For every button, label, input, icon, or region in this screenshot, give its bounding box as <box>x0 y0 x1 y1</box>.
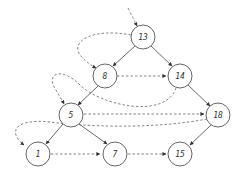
node-label: 14 <box>175 72 185 81</box>
node-15: 15 <box>168 142 192 166</box>
node-5: 5 <box>59 103 83 127</box>
solid-edges <box>46 46 211 145</box>
node-label: 1 <box>36 150 41 159</box>
edge-13-8 <box>113 46 135 66</box>
edge-5-7 <box>79 124 107 144</box>
node-label: 18 <box>213 111 223 120</box>
node-7: 7 <box>103 142 127 166</box>
node-8: 8 <box>93 64 117 88</box>
node-label: 13 <box>138 33 148 42</box>
edge-14-18 <box>188 85 210 106</box>
edge-8-5 <box>78 86 98 105</box>
node-1: 1 <box>26 142 50 166</box>
thread-18-1 <box>16 119 207 145</box>
node-label: 5 <box>69 111 74 120</box>
edge-13-14 <box>151 46 172 66</box>
node-label: 7 <box>113 150 118 159</box>
node-label: 15 <box>175 150 185 159</box>
edge-5-1 <box>46 124 63 144</box>
node-13: 13 <box>131 25 155 49</box>
tree-diagram: 13 8 14 5 18 1 7 15 <box>0 0 241 177</box>
node-18: 18 <box>206 103 230 127</box>
node-label: 8 <box>103 72 108 81</box>
node-14: 14 <box>168 64 192 88</box>
edge-18-15 <box>190 125 211 145</box>
thread-13-8 <box>78 33 131 68</box>
thread-entry-13 <box>128 8 137 26</box>
